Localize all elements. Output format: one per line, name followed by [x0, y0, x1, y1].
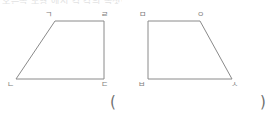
left-trapezoid-outline [16, 21, 104, 79]
vertex-label-left-top-left: ㄱ [45, 11, 52, 19]
vertex-label-right-top-right: ㅇ [197, 11, 204, 19]
vertex-label-right-bottom-right: ㅅ [231, 81, 238, 89]
vertex-label-left-bottom-left: ㄴ [7, 81, 14, 89]
geometry-figures-canvas [0, 0, 273, 119]
answer-open-paren: ( [110, 95, 116, 110]
vertex-label-left-top-right: ㄹ [101, 11, 108, 19]
answer-close-paren: ) [260, 95, 266, 110]
vertex-label-right-bottom-left: ㅂ [138, 81, 145, 89]
right-trapezoid-outline [148, 21, 232, 79]
vertex-label-right-top-left: ㅁ [139, 11, 146, 19]
worksheet-figure-page: 오른쪽 도형 에서 각 각의 꼭짓점 ㄱ ㄹ ㄷ ㄴ ㅁ ㅇ ㅅ ㅂ ( ) [0, 0, 273, 119]
vertex-label-left-bottom-right: ㄷ [101, 81, 108, 89]
